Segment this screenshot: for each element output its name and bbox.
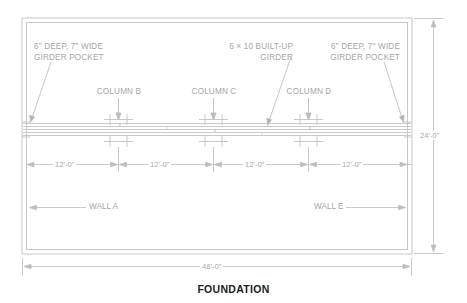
annotation-built-up-girder: 6 × 10 BUILT-UP GIRDER: [175, 42, 293, 63]
bay-dimension-3: 12'-0": [243, 160, 266, 169]
drawing-title: FOUNDATION: [0, 283, 467, 295]
column-label-d: COLUMN D: [273, 87, 345, 98]
column-label-leaders: [116, 98, 311, 120]
foundation-drawing: 6" DEEP, 7" WIDE GIRDER POCKET 6 × 10 BU…: [0, 0, 467, 303]
bay-dimension-4: 12'-0": [340, 160, 363, 169]
column-label-b: COLUMN B: [83, 87, 155, 98]
annotation-girder-pocket-right: 6" DEEP, 7" WIDE GIRDER POCKET: [283, 42, 400, 63]
column-label-c: COLUMN C: [178, 87, 250, 98]
wall-label-a: WALL A: [86, 202, 121, 212]
overall-width-label: 48'-0": [200, 262, 223, 271]
overall-height-label: 24'-0": [418, 131, 441, 140]
wall-label-e: WALL E: [311, 202, 346, 212]
annotation-girder-pocket-left: 6" DEEP, 7" WIDE GIRDER POCKET: [34, 42, 104, 63]
bay-dimension-1: 12'-0": [53, 160, 76, 169]
built-up-girder: [23, 124, 411, 136]
bay-dimension-2: 12'-0": [148, 160, 171, 169]
